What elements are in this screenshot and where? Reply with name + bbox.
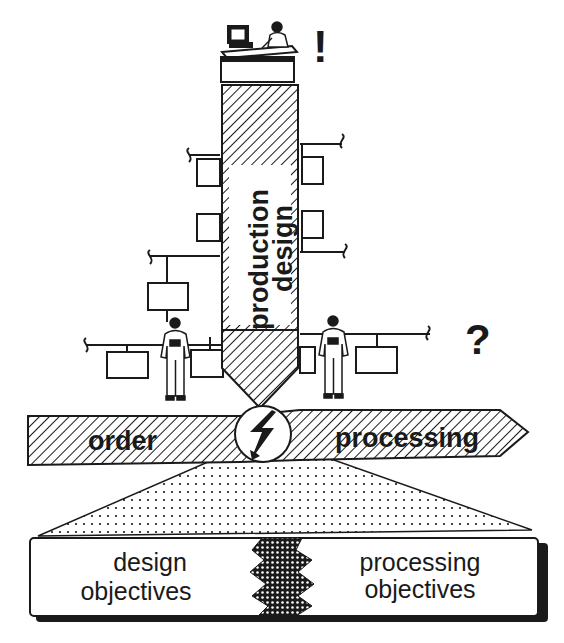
production-design-pencil: production design — [222, 85, 298, 408]
design-objectives-line1: design — [113, 548, 187, 576]
processing-objectives-line1: processing — [360, 548, 481, 576]
exclamation-mark: ! — [313, 22, 328, 71]
design-objectives-line2: objectives — [80, 577, 191, 605]
arrow-label-processing: processing — [335, 423, 479, 453]
processing-objectives-line2: objectives — [364, 575, 475, 603]
network-left — [84, 148, 223, 378]
arrow-label-order: order — [88, 426, 158, 456]
planner-person-icon — [262, 22, 288, 48]
production-design-diagram: ! production design ? order processing — [0, 0, 564, 643]
objectives-base: design objectives processing objectives — [30, 538, 548, 622]
network-right — [300, 134, 430, 373]
desk-with-computer-icon — [221, 26, 297, 82]
worker-left-icon — [161, 318, 190, 400]
worker-right-icon — [319, 316, 348, 398]
pencil-label-design: design — [268, 205, 298, 292]
question-mark: ? — [465, 316, 491, 363]
lightning-conflict-icon — [235, 406, 291, 462]
